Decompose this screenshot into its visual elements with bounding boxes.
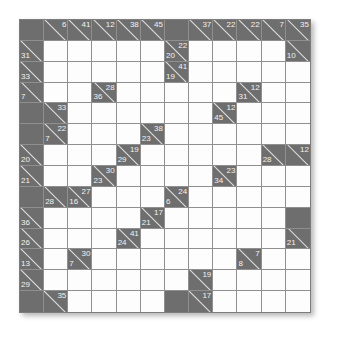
entry-cell[interactable]	[92, 124, 116, 145]
entry-cell[interactable]	[286, 187, 310, 208]
entry-cell[interactable]	[117, 291, 141, 312]
entry-cell[interactable]	[117, 41, 141, 62]
entry-cell[interactable]	[68, 62, 92, 83]
entry-cell[interactable]	[44, 62, 68, 83]
entry-cell[interactable]	[44, 41, 68, 62]
entry-cell[interactable]	[189, 208, 213, 229]
entry-cell[interactable]	[165, 166, 189, 187]
entry-cell[interactable]	[92, 291, 116, 312]
entry-cell[interactable]	[117, 270, 141, 291]
entry-cell[interactable]	[92, 208, 116, 229]
entry-cell[interactable]	[165, 145, 189, 166]
entry-cell[interactable]	[237, 41, 261, 62]
entry-cell[interactable]	[117, 103, 141, 124]
entry-cell[interactable]	[286, 103, 310, 124]
entry-cell[interactable]	[44, 229, 68, 250]
entry-cell[interactable]	[189, 124, 213, 145]
entry-cell[interactable]	[286, 291, 310, 312]
entry-cell[interactable]	[44, 208, 68, 229]
entry-cell[interactable]	[262, 62, 286, 83]
entry-cell[interactable]	[68, 166, 92, 187]
entry-cell[interactable]	[189, 229, 213, 250]
entry-cell[interactable]	[165, 249, 189, 270]
entry-cell[interactable]	[189, 187, 213, 208]
entry-cell[interactable]	[141, 83, 165, 104]
entry-cell[interactable]	[237, 229, 261, 250]
entry-cell[interactable]	[92, 249, 116, 270]
entry-cell[interactable]	[68, 145, 92, 166]
entry-cell[interactable]	[117, 166, 141, 187]
entry-cell[interactable]	[141, 291, 165, 312]
entry-cell[interactable]	[141, 41, 165, 62]
entry-cell[interactable]	[44, 249, 68, 270]
entry-cell[interactable]	[262, 187, 286, 208]
entry-cell[interactable]	[189, 145, 213, 166]
entry-cell[interactable]	[213, 124, 237, 145]
entry-cell[interactable]	[117, 249, 141, 270]
entry-cell[interactable]	[237, 187, 261, 208]
entry-cell[interactable]	[213, 187, 237, 208]
entry-cell[interactable]	[262, 166, 286, 187]
entry-cell[interactable]	[213, 208, 237, 229]
entry-cell[interactable]	[68, 124, 92, 145]
entry-cell[interactable]	[44, 270, 68, 291]
entry-cell[interactable]	[141, 229, 165, 250]
entry-cell[interactable]	[213, 229, 237, 250]
entry-cell[interactable]	[141, 103, 165, 124]
entry-cell[interactable]	[68, 208, 92, 229]
entry-cell[interactable]	[68, 41, 92, 62]
entry-cell[interactable]	[68, 229, 92, 250]
entry-cell[interactable]	[237, 62, 261, 83]
entry-cell[interactable]	[286, 83, 310, 104]
entry-cell[interactable]	[68, 103, 92, 124]
entry-cell[interactable]	[117, 62, 141, 83]
entry-cell[interactable]	[286, 124, 310, 145]
entry-cell[interactable]	[189, 83, 213, 104]
entry-cell[interactable]	[262, 83, 286, 104]
entry-cell[interactable]	[262, 103, 286, 124]
entry-cell[interactable]	[117, 124, 141, 145]
entry-cell[interactable]	[68, 270, 92, 291]
entry-cell[interactable]	[92, 270, 116, 291]
entry-cell[interactable]	[117, 208, 141, 229]
entry-cell[interactable]	[262, 229, 286, 250]
entry-cell[interactable]	[237, 270, 261, 291]
entry-cell[interactable]	[237, 291, 261, 312]
entry-cell[interactable]	[237, 208, 261, 229]
entry-cell[interactable]	[262, 249, 286, 270]
entry-cell[interactable]	[262, 124, 286, 145]
entry-cell[interactable]	[213, 145, 237, 166]
entry-cell[interactable]	[213, 41, 237, 62]
entry-cell[interactable]	[189, 41, 213, 62]
entry-cell[interactable]	[141, 62, 165, 83]
entry-cell[interactable]	[165, 229, 189, 250]
entry-cell[interactable]	[237, 103, 261, 124]
entry-cell[interactable]	[68, 83, 92, 104]
entry-cell[interactable]	[165, 208, 189, 229]
entry-cell[interactable]	[189, 62, 213, 83]
entry-cell[interactable]	[165, 124, 189, 145]
entry-cell[interactable]	[117, 83, 141, 104]
entry-cell[interactable]	[165, 270, 189, 291]
kakuro-grid[interactable]: 6411238453722227353122201033411972836123…	[19, 19, 311, 313]
entry-cell[interactable]	[44, 145, 68, 166]
entry-cell[interactable]	[213, 270, 237, 291]
entry-cell[interactable]	[141, 270, 165, 291]
entry-cell[interactable]	[165, 103, 189, 124]
entry-cell[interactable]	[237, 124, 261, 145]
entry-cell[interactable]	[213, 249, 237, 270]
entry-cell[interactable]	[117, 187, 141, 208]
entry-cell[interactable]	[262, 291, 286, 312]
entry-cell[interactable]	[213, 62, 237, 83]
entry-cell[interactable]	[92, 145, 116, 166]
entry-cell[interactable]	[92, 62, 116, 83]
entry-cell[interactable]	[286, 166, 310, 187]
entry-cell[interactable]	[262, 208, 286, 229]
entry-cell[interactable]	[213, 83, 237, 104]
entry-cell[interactable]	[141, 145, 165, 166]
entry-cell[interactable]	[141, 187, 165, 208]
entry-cell[interactable]	[189, 166, 213, 187]
entry-cell[interactable]	[44, 83, 68, 104]
entry-cell[interactable]	[262, 270, 286, 291]
entry-cell[interactable]	[44, 166, 68, 187]
